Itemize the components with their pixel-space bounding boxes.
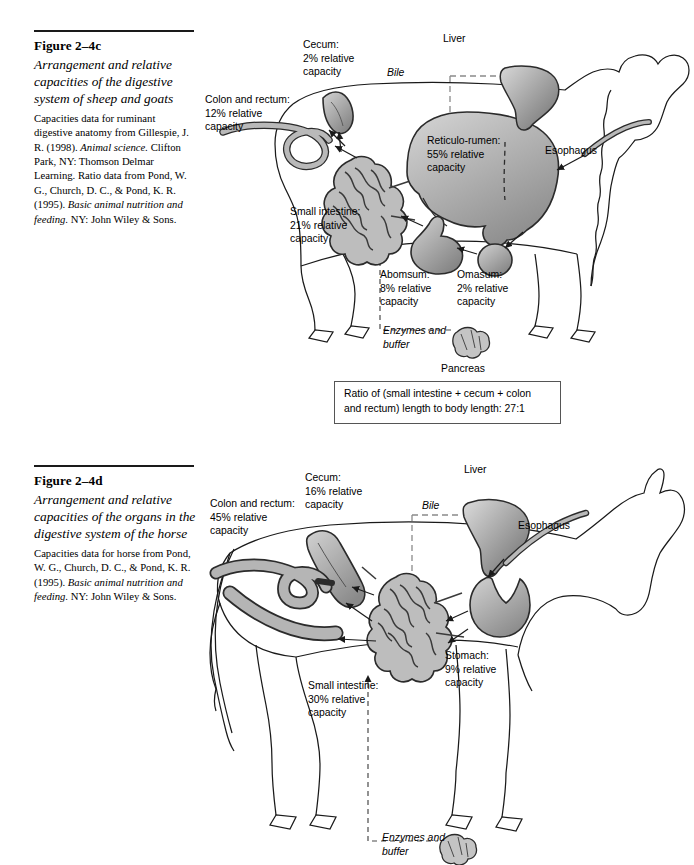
figure-title: Arrangement and relative capacities of t… — [34, 491, 196, 543]
label-small-intestine: Small intestine: 21% relative capacity — [290, 205, 360, 246]
source-text-3: NY: John Wiley & Sons. — [68, 213, 176, 225]
figure-2-4c-caption: Figure 2–4c Arrangement and relative cap… — [34, 30, 196, 226]
organ-cecum — [323, 92, 353, 133]
source-text-2: NY: John Wiley & Sons. — [68, 590, 176, 602]
label-reticulo-rumen: Reticulo-rumen: 55% relative capacity — [427, 134, 500, 175]
label-omasum: Omasum: 2% relative capacity — [457, 268, 508, 309]
organ-stomach — [470, 578, 530, 638]
label-stomach: Stomach: 9% relative capacity — [445, 649, 496, 690]
label-small-intestine: Small intestine: 30% relative capacity — [308, 679, 378, 720]
figure-number: Figure 2–4c — [34, 38, 196, 55]
source-italic-1: Animal science. — [80, 141, 148, 153]
caption-rule — [34, 465, 194, 467]
label-cecum: Cecum: 2% relative capacity — [303, 38, 354, 79]
label-esophagus: Esophagus — [545, 144, 597, 158]
figure-2-4c: Figure 2–4c Arrangement and relative cap… — [0, 0, 694, 435]
sheep-anatomy-svg — [205, 20, 694, 380]
label-cecum: Cecum: 16% relative capacity — [305, 471, 362, 512]
organ-liver — [463, 500, 529, 577]
label-pancreas: Pancreas — [441, 362, 485, 376]
label-enzymes-and-buffer: Enzymes and buffer — [383, 324, 446, 351]
label-colon-and-rectum: Colon and rectum: 12% relative capacity — [205, 93, 290, 134]
figure-number: Figure 2–4d — [34, 473, 196, 490]
organ-pancreas — [453, 328, 490, 359]
label-esophagus: Esophagus — [518, 519, 570, 533]
figure-source: Capacities data for ruminant digestive a… — [34, 111, 196, 226]
ratio-note-box: Ratio of (small intestine + cecum + colo… — [334, 381, 561, 424]
label-colon-and-rectum: Colon and rectum: 45% relative capacity — [210, 497, 295, 538]
organ-abomasum — [411, 217, 463, 274]
sheep-diagram: Cecum: 2% relative capacity Colon and re… — [205, 20, 694, 380]
figure-title: Arrangement and relative capacities of t… — [34, 56, 196, 108]
figure-2-4d-caption: Figure 2–4d Arrangement and relative cap… — [34, 465, 196, 603]
horse-diagram: Cecum: 16% relative capacity Colon and r… — [200, 453, 694, 865]
enzymes-flow-path — [368, 675, 438, 841]
organ-colon-and-rectum — [216, 565, 336, 634]
label-liver: Liver — [464, 463, 487, 477]
figure-2-4d: Figure 2–4d Arrangement and relative cap… — [0, 435, 694, 865]
organ-pancreas — [440, 835, 477, 865]
label-abomasum: Abomsum: 8% relative capacity — [380, 268, 431, 309]
caption-rule — [34, 30, 194, 32]
label-liver: Liver — [443, 32, 466, 46]
figure-source: Capacities data for horse from Pond, W. … — [34, 546, 196, 604]
label-enzymes-and-buffer: Enzymes and buffer — [382, 831, 445, 858]
label-bile: Bile — [387, 66, 404, 80]
label-bile: Bile — [422, 499, 439, 513]
